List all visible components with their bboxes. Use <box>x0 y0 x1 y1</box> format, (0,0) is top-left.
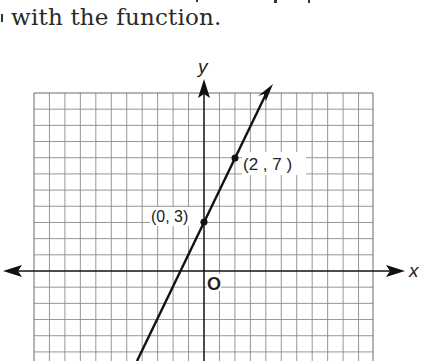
y-axis-label: y <box>196 56 209 77</box>
point-label-2-7: (2 , 7 ) <box>243 155 292 174</box>
axes <box>16 92 392 361</box>
function-line <box>137 94 266 361</box>
point-label-0-3: (0, 3) <box>151 208 188 225</box>
point-0-3 <box>201 219 208 226</box>
coordinate-graph: (0, 3) (2 , 7 ) O y x <box>0 0 421 361</box>
point-2-7 <box>232 155 239 162</box>
origin-label: O <box>207 274 221 294</box>
cut-off-text-fragments <box>1 0 310 22</box>
x-axis-label: x <box>408 260 420 281</box>
